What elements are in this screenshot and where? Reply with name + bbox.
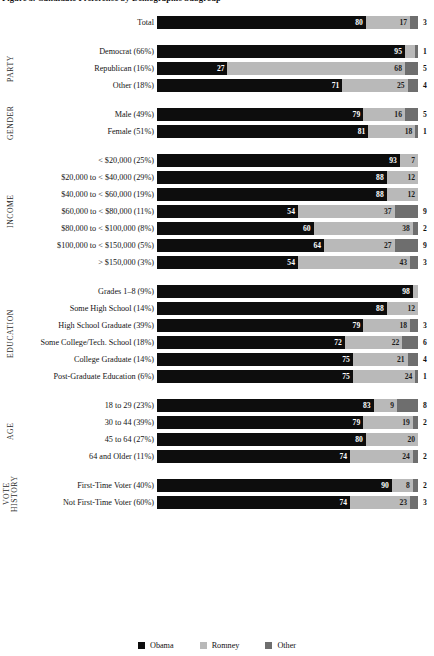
segment-value-label: 16: [394, 108, 402, 121]
segment-value-label: 25: [397, 79, 405, 92]
row-category-label: Some High School (14%): [20, 302, 154, 315]
other-value-label: 2: [423, 416, 427, 429]
bar-row: Republican (16%)27685: [0, 62, 434, 75]
bar-segment-romney: 7: [400, 154, 418, 167]
bar-segment-other: [413, 450, 418, 463]
segment-value-label: 93: [389, 154, 397, 167]
row-category-label: 30 to 44 (39%): [20, 416, 154, 429]
bar-segment-romney: 4: [405, 45, 415, 58]
bar-segment-other: [405, 108, 418, 121]
bar-segment-romney: 24: [353, 370, 416, 383]
legend-label: Romney: [212, 641, 240, 650]
bar-track: 7916: [157, 108, 418, 121]
bar-segment-obama: 95: [157, 45, 405, 58]
bar-track: 6038: [157, 222, 418, 235]
segment-value-label: 24: [405, 370, 413, 383]
bar-segment-obama: 75: [157, 370, 353, 383]
bar-segment-romney: 19: [363, 416, 413, 429]
bar-segment-romney: 43: [298, 256, 410, 269]
segment-value-label: 71: [332, 79, 340, 92]
segment-value-label: 12: [407, 302, 415, 315]
segment-value-label: 74: [340, 496, 348, 509]
segment-value-label: 95: [394, 45, 402, 58]
bar-track: 908: [157, 479, 418, 492]
bar-segment-romney: 9: [374, 399, 397, 412]
bar-segment-other: [408, 353, 418, 366]
bar-row: $100,000 to < $150,000 (5%)64279: [0, 239, 434, 252]
segment-value-label: 8: [406, 479, 410, 492]
bar-row: 45 to 64 (27%)8020: [0, 433, 434, 446]
row-category-label: Total: [20, 16, 154, 29]
segment-value-label: 74: [340, 450, 348, 463]
bar-segment-romney: 37: [298, 205, 395, 218]
bar-segment-other: [405, 62, 418, 75]
bar-row: High School Graduate (39%)79183: [0, 319, 434, 332]
legend-item-romney[interactable]: Romney: [200, 641, 240, 650]
bar-track: 937: [157, 154, 418, 167]
segment-value-label: 88: [376, 302, 384, 315]
bar-row: $40,000 to < $60,000 (19%)8812: [0, 188, 434, 201]
bar-track: 7521: [157, 353, 418, 366]
segment-value-label: 12: [407, 188, 415, 201]
other-value-label: 4: [423, 79, 427, 92]
row-category-label: Democrat (66%): [20, 45, 154, 58]
bar-row: 18 to 29 (23%)8398: [0, 399, 434, 412]
segment-value-label: 7: [411, 154, 415, 167]
bar-row: Other (18%)71254: [0, 79, 434, 92]
other-value-label: 2: [423, 479, 427, 492]
bar-segment-romney: 22: [345, 336, 402, 349]
bar-segment-other: [415, 125, 418, 138]
bar-segment-romney: 27: [324, 239, 394, 252]
row-category-label: Post-Graduate Education (6%): [20, 370, 154, 383]
other-value-label: 3: [423, 16, 427, 29]
bar-segment-other: [395, 205, 418, 218]
segment-value-label: 43: [400, 256, 408, 269]
bar-track: 7125: [157, 79, 418, 92]
bar-segment-romney: 18: [363, 319, 410, 332]
other-value-label: 2: [423, 450, 427, 463]
bar-segment-obama: 71: [157, 79, 342, 92]
row-category-label: Other (18%): [20, 79, 154, 92]
other-value-label: 6: [423, 336, 427, 349]
segment-value-label: 21: [397, 353, 405, 366]
segment-value-label: 60: [303, 222, 311, 235]
segment-value-label: 9: [390, 399, 394, 412]
segment-value-label: 19: [402, 416, 410, 429]
figure-title: Figure 3. Candidate Preference by Demogr…: [2, 0, 432, 3]
bar-segment-obama: 64: [157, 239, 324, 252]
stacked-bar-chart: Figure 3. Candidate Preference by Demogr…: [0, 0, 434, 656]
other-value-label: 2: [423, 222, 427, 235]
other-value-label: 3: [423, 319, 427, 332]
bar-segment-romney: 17: [366, 16, 410, 29]
legend-item-other[interactable]: Other: [265, 641, 296, 650]
row-category-label: $100,000 to < $150,000 (5%): [20, 239, 154, 252]
bar-row: $20,000 to < $40,000 (29%)8812: [0, 171, 434, 184]
bar-row: Some College/Tech. School (18%)72226: [0, 336, 434, 349]
bar-row: Democrat (66%)9541: [0, 45, 434, 58]
bar-segment-other: [413, 222, 418, 235]
legend-label: Obama: [150, 641, 174, 650]
row-category-label: 64 and Older (11%): [20, 450, 154, 463]
bar-row: Total80173: [0, 16, 434, 29]
legend-item-obama[interactable]: Obama: [138, 641, 174, 650]
bar-row: First-Time Voter (40%)9082: [0, 479, 434, 492]
segment-value-label: 81: [358, 125, 366, 138]
bar-segment-other: [410, 256, 418, 269]
bar-segment-obama: 83: [157, 399, 374, 412]
bar-segment-obama: 79: [157, 108, 363, 121]
segment-value-label: 37: [384, 205, 392, 218]
bar-segment-obama: 80: [157, 16, 366, 29]
row-category-label: < $20,000 (25%): [20, 154, 154, 167]
row-category-label: Female (51%): [20, 125, 154, 138]
bar-segment-obama: 54: [157, 205, 298, 218]
segment-value-label: 22: [392, 336, 400, 349]
row-category-label: $40,000 to < $60,000 (19%): [20, 188, 154, 201]
bar-segment-obama: 98: [157, 285, 413, 298]
row-category-label: Republican (16%): [20, 62, 154, 75]
bar-row: $60,000 to < $80,000 (11%)54379: [0, 205, 434, 218]
bar-segment-obama: 60: [157, 222, 314, 235]
bar-track: 982: [157, 285, 418, 298]
segment-value-label: 79: [353, 319, 361, 332]
bar-track: 8017: [157, 16, 418, 29]
bar-segment-romney: 21: [353, 353, 408, 366]
